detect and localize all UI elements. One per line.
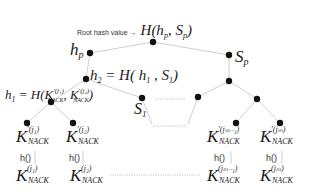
- dotted-lines: [110, 99, 200, 175]
- edge-root-sp: [153, 42, 229, 55]
- leaf-2-hash-fn: h(): [69, 154, 80, 163]
- edge-spchild-left: [198, 81, 229, 97]
- edge-left-down: [188, 97, 198, 124]
- leaf-3-hash-fn: h(): [214, 154, 225, 163]
- leaf-4-bottom: K(jₘ)NACK: [260, 167, 271, 184]
- leaf-4-hash-fn: h(): [266, 154, 277, 163]
- node-right-right: [254, 96, 260, 102]
- node-right-left: [195, 94, 201, 100]
- node-hp: [87, 50, 93, 56]
- node-h2: [83, 76, 89, 82]
- leaf-4-top: K′(jₘ)NACK: [260, 128, 271, 145]
- h2-label: h2 = H( h1 , S1): [90, 68, 178, 85]
- edge-h1-leaf2: [51, 102, 73, 123]
- node-sp: [226, 52, 232, 58]
- leaf-2-top: K′(j₂)NACK: [66, 128, 77, 145]
- leaf-1-hash-fn: h(): [20, 154, 31, 163]
- root-annotation: Root hash value →: [77, 29, 137, 36]
- edge-right-leaf4: [257, 99, 280, 123]
- root-label: Root hash value → H(hp, Sp): [77, 22, 192, 40]
- sp-label: Sp: [235, 48, 249, 67]
- edge-right-leaf3: [236, 99, 257, 123]
- node-leaf-2: [70, 120, 76, 126]
- leaf-1-top: K′(j₁)NACK: [16, 128, 27, 145]
- h1-label: h1 = H(K′(j₁)NACK, K′(j₂)NACK): [5, 88, 93, 104]
- leaf-1-bottom: K(j₁)NACK: [16, 167, 27, 184]
- edge-spchild-right: [229, 81, 257, 99]
- leaf-3-top: K′(jₘ₋₁)NACK: [207, 128, 218, 145]
- leaf-2-bottom: K(j₂)NACK: [70, 167, 81, 184]
- hp-label: hp: [70, 41, 84, 60]
- edge-root-hp: [90, 42, 153, 53]
- s1-label: S1: [134, 101, 147, 119]
- root-formula: H(hp, Sp): [141, 22, 192, 38]
- node-sp-child: [226, 78, 232, 84]
- leaf-3-bottom: K(jₘ₋₁)NACK: [207, 167, 218, 184]
- edge-h1-leaf1: [27, 102, 51, 123]
